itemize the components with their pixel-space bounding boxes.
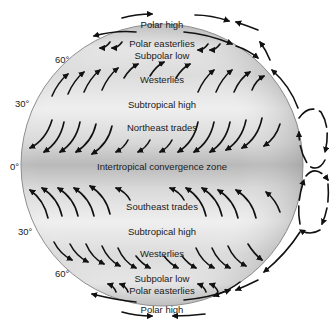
latitude-label-30n: 30° <box>15 98 30 109</box>
label-subtropical-high-south: Subtropical high <box>128 226 196 237</box>
label-westerlies-north: Westerlies <box>140 74 184 85</box>
latitude-label-0: 0° <box>10 161 19 172</box>
latitude-label-30s: 30° <box>18 226 33 237</box>
atmospheric-circulation-diagram: 60° 30° 0° 30° 60° Polar high Polar east… <box>0 0 336 326</box>
label-westerlies-south: Westerlies <box>140 248 184 259</box>
label-northeast-trades: Northeast trades <box>127 122 197 133</box>
label-polar-high-south: Polar high <box>141 304 184 315</box>
label-subpolar-low-south: Subpolar low <box>135 273 190 284</box>
label-subpolar-low-north: Subpolar low <box>135 50 190 61</box>
label-polar-easterlies-north: Polar easterlies <box>129 38 195 49</box>
label-polar-easterlies-south: Polar easterlies <box>129 285 195 296</box>
latitude-label-60s: 60° <box>55 268 70 279</box>
label-polar-high-north: Polar high <box>141 19 184 30</box>
label-itcz: Intertropical convergence zone <box>97 161 227 172</box>
latitude-label-60n: 60° <box>55 54 70 65</box>
label-southeast-trades: Southeast trades <box>126 201 198 212</box>
label-subtropical-high-north: Subtropical high <box>128 99 196 110</box>
